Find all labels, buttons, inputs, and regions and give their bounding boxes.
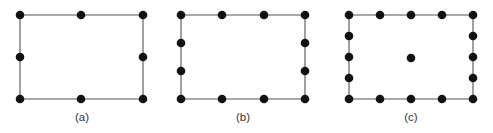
node-marker	[260, 11, 269, 20]
panel-caption-c: (c)	[404, 111, 418, 123]
node-marker	[407, 11, 416, 20]
node-marker	[177, 67, 186, 76]
node-marker	[139, 95, 148, 104]
node-marker	[301, 11, 310, 20]
node-marker	[345, 32, 354, 41]
node-marker	[139, 53, 148, 62]
node-marker	[438, 95, 447, 104]
node-marker	[376, 11, 385, 20]
figure-container: (a)(b)(c)	[0, 0, 493, 133]
element-panel-b: (b)	[177, 11, 310, 123]
node-marker	[469, 74, 478, 83]
element-diagram-svg: (a)(b)(c)	[0, 0, 493, 133]
node-marker	[16, 11, 25, 20]
element-boundary-a	[20, 15, 143, 99]
node-marker	[218, 95, 227, 104]
node-marker	[301, 39, 310, 48]
node-marker	[16, 53, 25, 62]
node-marker	[301, 67, 310, 76]
node-marker	[407, 54, 416, 63]
node-marker	[177, 95, 186, 104]
node-marker	[345, 11, 354, 20]
node-marker	[345, 95, 354, 104]
node-marker	[376, 95, 385, 104]
node-marker	[139, 11, 148, 20]
node-marker	[469, 95, 478, 104]
node-marker	[218, 11, 227, 20]
node-marker	[16, 95, 25, 104]
node-marker	[77, 95, 86, 104]
node-marker	[438, 11, 447, 20]
node-marker	[345, 53, 354, 62]
node-marker	[260, 95, 269, 104]
node-marker	[77, 11, 86, 20]
element-panel-a: (a)	[16, 11, 148, 123]
node-marker	[301, 95, 310, 104]
element-boundary-b	[181, 15, 305, 99]
node-marker	[469, 11, 478, 20]
node-marker	[177, 11, 186, 20]
node-marker	[177, 39, 186, 48]
node-marker	[407, 95, 416, 104]
element-panel-c: (c)	[345, 11, 478, 123]
node-marker	[469, 32, 478, 41]
panel-caption-a: (a)	[75, 111, 89, 123]
node-marker	[345, 74, 354, 83]
panel-caption-b: (b)	[236, 111, 250, 123]
node-marker	[469, 53, 478, 62]
